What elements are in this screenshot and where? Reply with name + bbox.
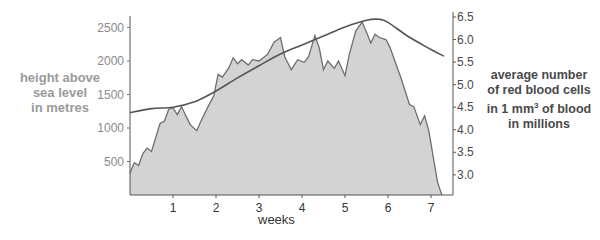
left-tick-label: 500 [104,155,124,169]
chart-plot: 50010001500200025003.03.54.04.55.05.56.0… [0,0,600,240]
right-tick-label: 3.0 [457,168,474,182]
x-tick-label: 5 [342,201,349,215]
altitude-area [130,22,442,195]
x-tick-label: 2 [213,201,220,215]
left-tick-label: 2500 [97,21,124,35]
right-tick-label: 4.5 [457,100,474,114]
x-tick-label: 4 [299,201,306,215]
x-tick-label: 7 [428,201,435,215]
left-tick-label: 2000 [97,54,124,68]
right-tick-label: 3.5 [457,145,474,159]
left-tick-label: 1000 [97,121,124,135]
right-tick-label: 6.5 [457,10,474,24]
right-tick-label: 5.5 [457,55,474,69]
right-tick-label: 4.0 [457,123,474,137]
right-tick-label: 6.0 [457,33,474,47]
x-tick-label: 1 [170,201,177,215]
x-tick-label: 3 [256,201,263,215]
right-tick-label: 5.0 [457,78,474,92]
left-tick-label: 1500 [97,88,124,102]
x-tick-label: 6 [385,201,392,215]
